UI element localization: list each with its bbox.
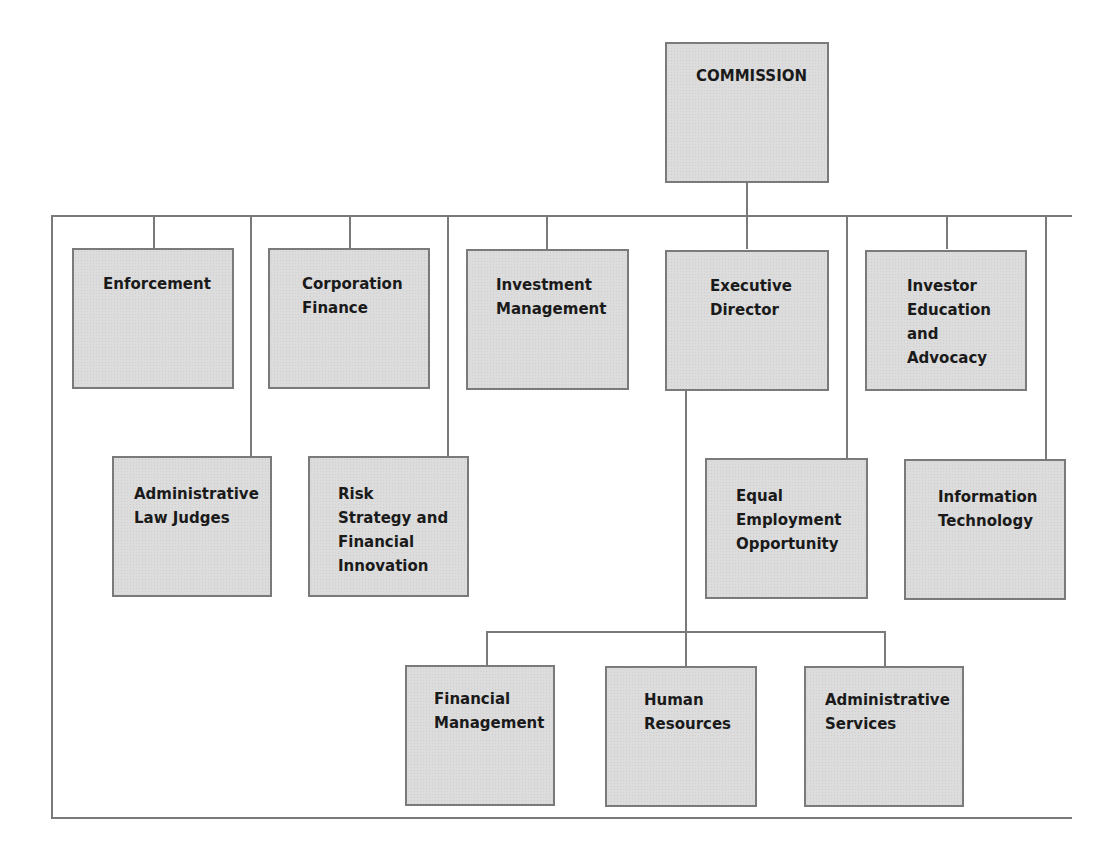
box-label: COMMISSION (696, 64, 807, 88)
connector-investment-management (546, 215, 548, 249)
box-financial-management: Financial Management (405, 665, 555, 806)
box-label: Investor Education and Advocacy (907, 274, 991, 370)
box-corporation-finance: Corporation Finance (268, 248, 430, 389)
box-label: Risk Strategy and Financial Innovation (338, 482, 448, 578)
box-equal-employment-opportunity: Equal Employment Opportunity (705, 458, 868, 599)
box-administrative-law-judges: Administrative Law Judges (112, 456, 272, 597)
connector-investor-education (946, 215, 948, 249)
box-commission: COMMISSION (665, 42, 829, 183)
connector-admin-law-judges (250, 215, 252, 459)
box-enforcement: Enforcement (72, 248, 234, 389)
box-label: Financial Management (434, 687, 544, 735)
frame-top-line (51, 215, 1072, 217)
connector-equal-employment (846, 215, 848, 461)
org-chart: COMMISSION Enforcement Corporation Finan… (0, 0, 1116, 862)
connector-executive-director (746, 215, 748, 249)
box-label: Administrative Law Judges (134, 482, 259, 530)
connector-exec-dir-branch (486, 631, 886, 633)
box-label: Executive Director (710, 274, 792, 322)
box-label: Human Resources (644, 688, 731, 736)
connector-information-technology (1045, 215, 1047, 461)
connector-administrative-services (884, 631, 886, 666)
box-administrative-services: Administrative Services (804, 666, 964, 807)
box-label: Equal Employment Opportunity (736, 484, 842, 556)
box-label: Information Technology (938, 485, 1038, 533)
box-label: Enforcement (103, 272, 211, 296)
box-investment-management: Investment Management (466, 249, 629, 390)
connector-corporation-finance (349, 215, 351, 249)
box-risk-strategy-financial-innovation: Risk Strategy and Financial Innovation (308, 456, 469, 597)
connector-enforcement (153, 215, 155, 249)
box-information-technology: Information Technology (904, 459, 1066, 600)
connector-exec-dir-down (685, 388, 687, 666)
box-executive-director: Executive Director (665, 250, 829, 391)
box-human-resources: Human Resources (605, 666, 757, 807)
box-investor-education-advocacy: Investor Education and Advocacy (865, 250, 1027, 391)
box-label: Investment Management (496, 273, 606, 321)
frame-bottom-line (51, 817, 1072, 819)
frame-left-line (51, 215, 53, 819)
box-label: Administrative Services (825, 688, 950, 736)
connector-commission-down (746, 182, 748, 218)
box-label: Corporation Finance (302, 272, 403, 320)
connector-financial-management (486, 631, 488, 666)
connector-risk-strategy (447, 215, 449, 459)
